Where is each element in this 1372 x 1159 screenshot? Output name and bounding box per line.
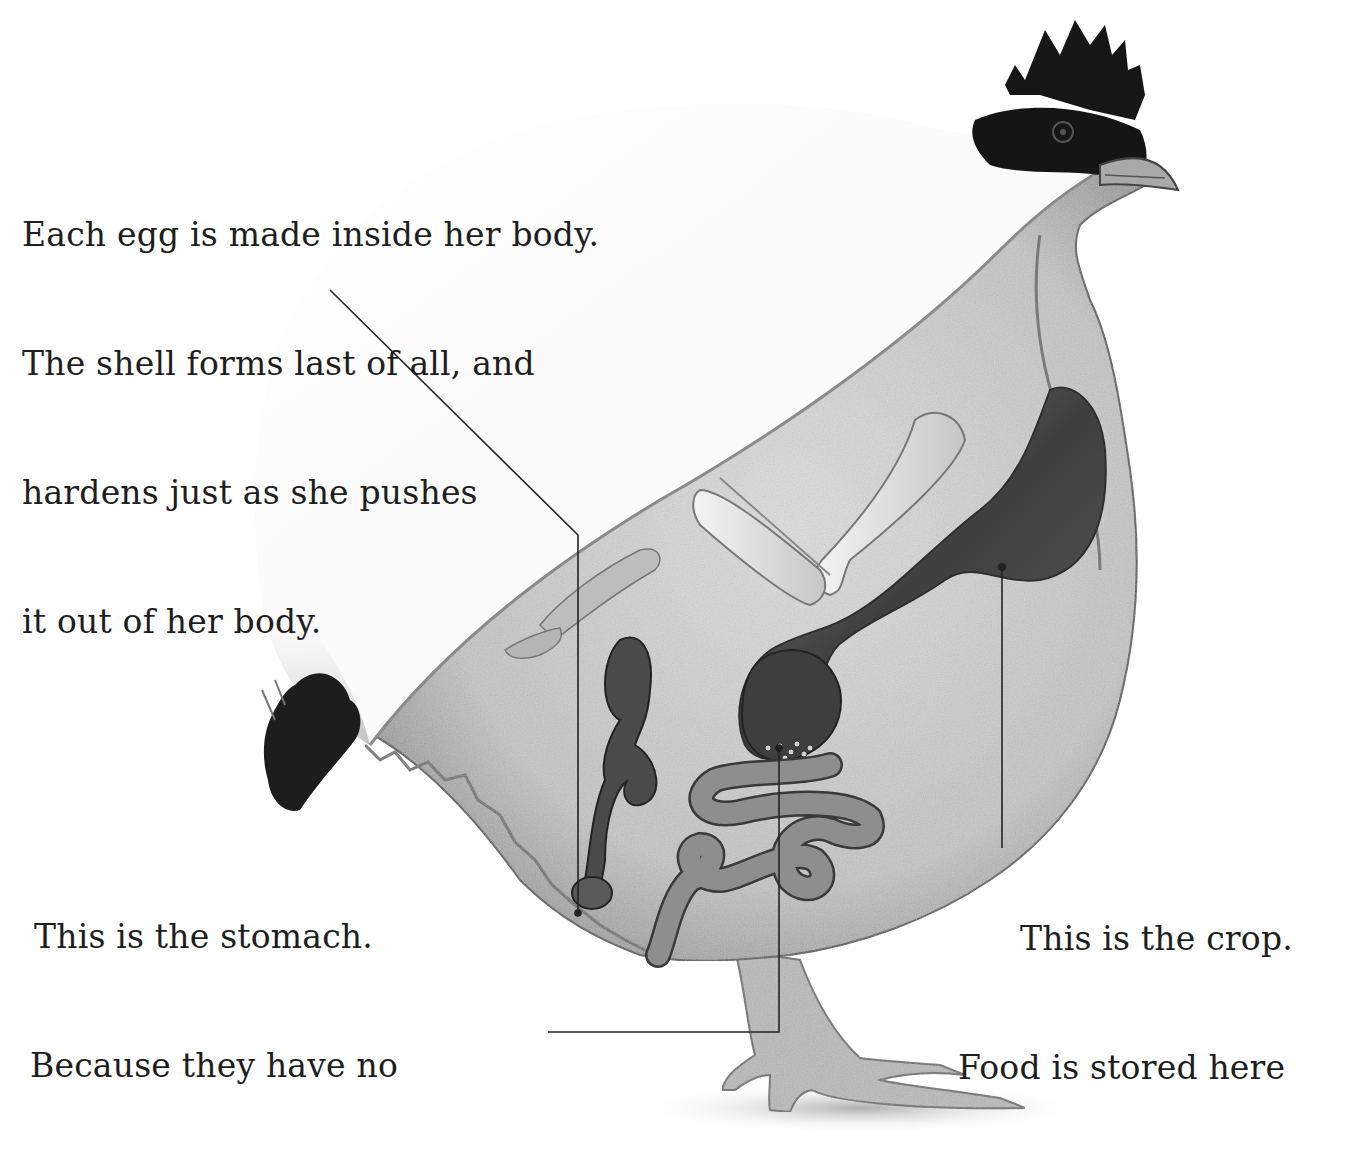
crop-caption-line: This is the crop. xyxy=(866,917,1286,960)
beak xyxy=(1100,158,1178,190)
comb-icon xyxy=(1005,20,1145,120)
stomach-caption-line: Because they have no xyxy=(30,1044,547,1087)
crop-caption-line: Food is stored here xyxy=(866,1046,1286,1089)
egg-caption-line: The shell forms last of all, and xyxy=(22,342,599,385)
chicken-anatomy-figure: Each egg is made inside her body. The sh… xyxy=(0,0,1372,1159)
egg-caption-line: hardens just as she pushes xyxy=(22,471,599,514)
egg-caption-line: it out of her body. xyxy=(22,600,599,643)
stomach-caption-line: This is the stomach. xyxy=(30,915,547,958)
egg-caption: Each egg is made inside her body. The sh… xyxy=(22,127,599,729)
stomach-caption: This is the stomach. Because they have n… xyxy=(30,829,547,1159)
egg-caption-line: Each egg is made inside her body. xyxy=(22,213,599,256)
crop-caption: This is the crop. Food is stored here be… xyxy=(866,831,1286,1159)
head xyxy=(972,20,1178,190)
